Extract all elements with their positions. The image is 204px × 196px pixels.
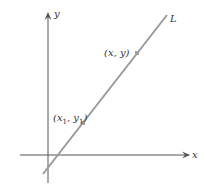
- y-axis-label: y: [54, 9, 60, 19]
- line-label: L: [170, 14, 177, 24]
- diagram-canvas: y x L (x, y) (x1, y1): [0, 0, 204, 196]
- point-x-y: [135, 51, 139, 55]
- label-part: (x: [53, 112, 63, 123]
- line-l: [43, 15, 167, 174]
- point-label-x-y: (x, y): [104, 48, 129, 58]
- label-part: ): [84, 112, 88, 123]
- x-axis-label: x: [192, 150, 198, 160]
- label-part: , y: [67, 112, 79, 123]
- point-label-x1-y1: (x1, y1): [53, 113, 87, 126]
- diagram-svg: [0, 0, 204, 196]
